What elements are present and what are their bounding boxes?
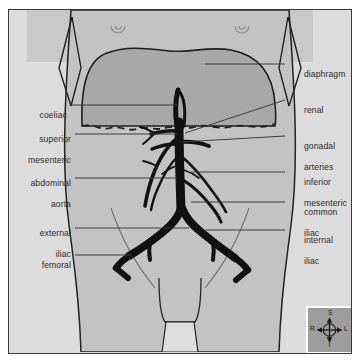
compass-label-inferior: I bbox=[329, 341, 331, 348]
compass-label-right: R bbox=[310, 325, 315, 332]
label-internal-iliac-line1: internal bbox=[304, 235, 333, 245]
compass-inner-panel: S I R L bbox=[308, 308, 351, 352]
right-internal-iliac bbox=[213, 241, 214, 260]
label-coeliac-line1: coeliac bbox=[40, 110, 67, 120]
orientation-compass: S I R L bbox=[306, 306, 352, 354]
compass-label-superior: S bbox=[328, 309, 332, 316]
figure-frame: coeliac superior mesenteric abdominal ao… bbox=[8, 9, 352, 354]
label-diaphragm-line1: diaphragm bbox=[304, 69, 346, 79]
abdominal-aorta-trunk bbox=[179, 122, 181, 210]
label-superior-mesenteric-line1: superior bbox=[39, 134, 71, 144]
label-gonadal-arteries-line1: gonadal bbox=[304, 141, 335, 151]
diaphragm-dome bbox=[82, 48, 276, 126]
label-common-iliac-line1: common bbox=[304, 207, 338, 217]
perineum-outline bbox=[159, 278, 201, 322]
label-inferior-mesenteric-line1: inferior bbox=[304, 177, 331, 187]
label-abdominal-aorta-line1: abdominal bbox=[30, 178, 71, 188]
anatomy-figure: coeliac superior mesenteric abdominal ao… bbox=[0, 0, 361, 363]
label-internal-iliac-line2: iliac bbox=[304, 256, 319, 266]
label-internal-iliac: internal iliac bbox=[289, 225, 351, 276]
label-abdominal-aorta: abdominal aorta bbox=[9, 168, 71, 219]
label-femoral-line1: femoral bbox=[42, 260, 71, 270]
label-diaphragm: diaphragm bbox=[289, 59, 351, 90]
label-renal-line1: renal bbox=[304, 105, 324, 115]
label-renal: renal bbox=[289, 95, 351, 126]
compass-label-left: L bbox=[344, 325, 348, 332]
genital-outline bbox=[162, 322, 198, 352]
label-abdominal-aorta-line2: aorta bbox=[51, 199, 71, 209]
label-external-iliac-line1: external bbox=[40, 228, 71, 238]
left-internal-iliac bbox=[149, 241, 150, 260]
label-superior-mesenteric-line2: mesenteric bbox=[28, 155, 71, 165]
label-femoral: femoral bbox=[9, 250, 71, 281]
